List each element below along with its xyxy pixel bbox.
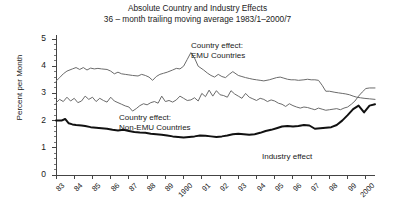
annotation-nonemu: Country effect:Non-EMU Countries	[119, 113, 191, 133]
annotation-emu: Country effect:EMU Countries	[191, 41, 245, 61]
annotation-line-2: EMU Countries	[191, 51, 245, 61]
y-tick-label: 1	[32, 142, 46, 152]
y-tick-label: 5	[32, 33, 46, 43]
chart-page: Absolute Country and Industry Effects 36…	[0, 0, 395, 222]
annotation-line-1: Country effect:	[191, 41, 245, 51]
y-tick-label: 0	[32, 169, 46, 179]
annotation-line-1: Industry effect	[262, 152, 312, 162]
y-tick-label: 2	[32, 115, 46, 125]
y-tick-label: 4	[32, 60, 46, 70]
y-tick-label: 3	[32, 87, 46, 97]
series-layer	[56, 53, 375, 138]
annotation-line-1: Country effect:	[119, 113, 191, 123]
annotation-line-2: Non-EMU Countries	[119, 123, 191, 133]
series-line	[56, 104, 375, 137]
annotation-industry: Industry effect	[262, 152, 312, 162]
